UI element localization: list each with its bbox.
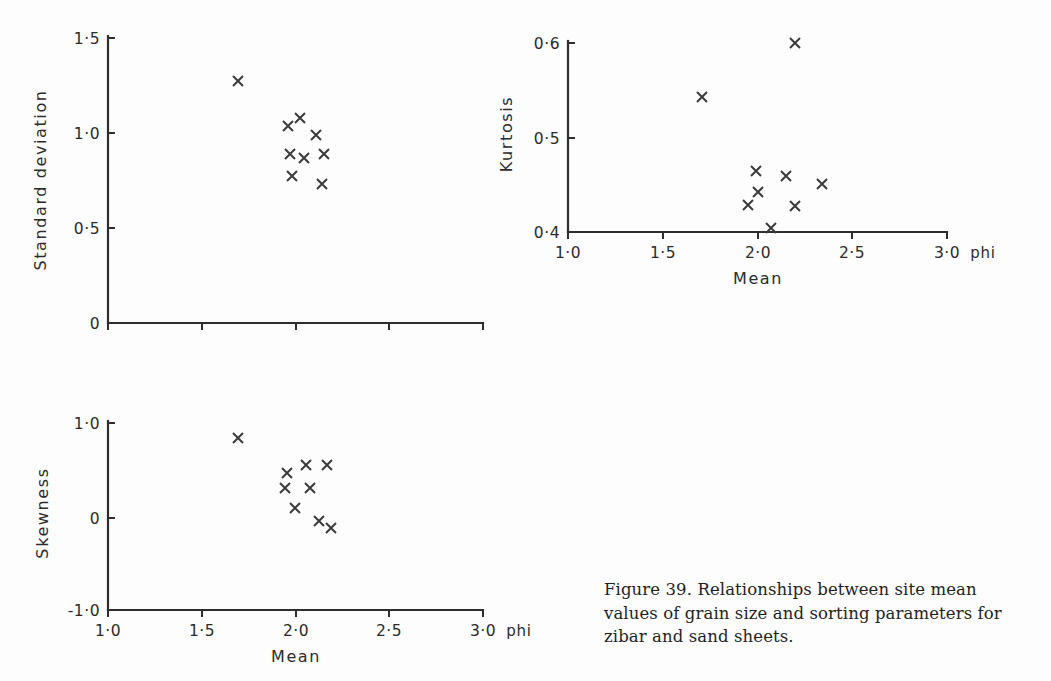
y-tick-label-neg-1-0: -1·0	[68, 602, 100, 620]
x-tick-label-2-5: 2·5	[839, 244, 865, 262]
x-tick-label-3-0: 3·0	[470, 622, 496, 640]
y-tick-label-0-4: 0·4	[534, 224, 560, 242]
x-axis-unit-phi: phi	[506, 622, 532, 640]
y-tick-label-0: 0	[90, 315, 100, 333]
figure-39: 1·5 1·0 0·5 0 Standard deviation	[0, 0, 1051, 681]
y-tick-label-1-5: 1·5	[74, 30, 100, 48]
y-tick-label-1-0: 1·0	[74, 415, 100, 433]
x-tick-label-1-5: 1·5	[650, 244, 676, 262]
data-points-kurtosis	[697, 38, 827, 233]
chart-skewness: 1·0 0 -1·0 1·0 1·5 2·0 2·5 3·0 phi Mean …	[0, 385, 520, 681]
x-tick-label-2-0: 2·0	[283, 622, 309, 640]
kurtosis-plot: 0·6 0·5 0·4 1·0 1·5 2·0 2·5 3·0 phi Mean…	[470, 0, 1051, 300]
x-tick-label-1-0: 1·0	[95, 622, 121, 640]
x-tick-label-1-0: 1·0	[555, 244, 581, 262]
x-tick-label-1-5: 1·5	[189, 622, 215, 640]
standard-deviation-plot: 1·5 1·0 0·5 0 Standard deviation	[0, 0, 520, 360]
x-tick-label-2-0: 2·0	[745, 244, 771, 262]
y-axis-title-skewness: Skewness	[33, 467, 52, 558]
x-tick-label-3-0: 3·0	[934, 244, 960, 262]
data-points-standard-deviation	[233, 76, 329, 189]
x-axis-unit-phi: phi	[970, 244, 996, 262]
y-axis-title-standard-deviation: Standard deviation	[31, 89, 50, 270]
x-tick-label-2-5: 2·5	[376, 622, 402, 640]
chart-standard-deviation: 1·5 1·0 0·5 0 Standard deviation	[0, 0, 520, 360]
y-tick-label-0-5: 0·5	[534, 130, 560, 148]
y-tick-label-0: 0	[90, 510, 100, 528]
data-points-skewness	[233, 433, 336, 533]
x-axis-title-skewness: Mean	[271, 647, 321, 666]
skewness-plot: 1·0 0 -1·0 1·0 1·5 2·0 2·5 3·0 phi Mean …	[0, 385, 520, 681]
chart-kurtosis: 0·6 0·5 0·4 1·0 1·5 2·0 2·5 3·0 phi Mean…	[470, 0, 1051, 300]
y-tick-label-1-0: 1·0	[74, 125, 100, 143]
y-tick-label-0-5: 0·5	[74, 220, 100, 238]
y-tick-label-0-6: 0·6	[534, 35, 560, 53]
x-axis-title-kurtosis: Mean	[733, 269, 783, 288]
y-axis-title-kurtosis: Kurtosis	[497, 96, 516, 172]
figure-caption: Figure 39. Relationships between site me…	[604, 578, 1004, 649]
